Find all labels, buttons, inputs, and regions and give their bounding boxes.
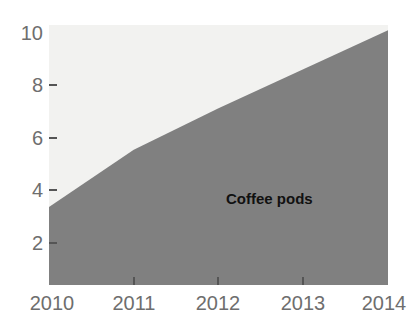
y-tick-label-8: 8	[32, 74, 43, 96]
y-tick-label-6: 6	[32, 127, 43, 149]
chart-screenshot: 10 8 6 4 2 2010 2011 2012 2013 2014 Coff…	[0, 0, 413, 322]
x-tick-label-2011: 2011	[112, 292, 155, 314]
y-tick-label-10: 10	[21, 22, 43, 44]
y-tick-label-4: 4	[32, 179, 43, 201]
x-tick-label-2012: 2012	[196, 292, 241, 314]
area-chart: 10 8 6 4 2 2010 2011 2012 2013 2014 Coff…	[0, 0, 413, 322]
x-tick-label-2014: 2014	[362, 292, 407, 314]
x-tick-label-2010: 2010	[30, 292, 75, 314]
x-tick-label-2013: 2013	[281, 292, 326, 314]
y-tick-label-2: 2	[32, 232, 43, 254]
series-annotation-coffee-pods: Coffee pods	[226, 190, 313, 207]
